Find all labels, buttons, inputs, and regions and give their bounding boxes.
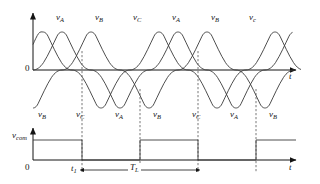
trough-label-7: vB bbox=[269, 110, 277, 119]
peak-label-1: vA bbox=[56, 13, 64, 22]
trough-label-2: vC bbox=[76, 110, 84, 119]
peak-label-2: vB bbox=[95, 13, 103, 22]
vcom-square-wave bbox=[33, 140, 296, 160]
peak-label-5: vB bbox=[211, 13, 219, 22]
trough-label-3: vA bbox=[115, 110, 123, 119]
trough-label-4: vB bbox=[153, 110, 161, 119]
t1-label: t1 bbox=[71, 164, 77, 173]
bottom-x-axis-label: t bbox=[289, 163, 292, 172]
top-x-axis-label: t bbox=[289, 72, 292, 81]
bottom-plot-axes bbox=[33, 128, 296, 160]
bottom-origin-label: 0 bbox=[25, 163, 30, 172]
waveform-diagram bbox=[0, 0, 320, 184]
trough-label-5: vC bbox=[192, 110, 200, 119]
trough-label-1: vB bbox=[38, 110, 46, 119]
trough-label-6: vA bbox=[230, 110, 238, 119]
top-origin-label: 0 bbox=[25, 64, 30, 73]
figure-root: vA vB vC vA vB vc vB vC vA vB vC vA vB 0… bbox=[0, 0, 320, 184]
top-plot-axes bbox=[33, 13, 296, 70]
peak-label-4: vA bbox=[172, 13, 180, 22]
period-label: TL bbox=[128, 163, 141, 172]
peak-label-3: vC bbox=[133, 13, 141, 22]
peak-label-6: vc bbox=[249, 13, 256, 22]
vcom-label: vcom bbox=[12, 131, 27, 140]
